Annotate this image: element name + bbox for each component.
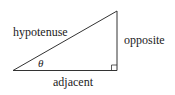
hypotenuse-label: hypotenuse (13, 25, 68, 39)
opposite-label: opposite (124, 33, 165, 47)
right-angle-marker (112, 65, 118, 71)
adjacent-label: adjacent (53, 75, 94, 89)
right-triangle-diagram: hypotenuse opposite adjacent θ (0, 0, 175, 95)
theta-angle-label: θ (38, 57, 44, 69)
triangle-shape (13, 11, 117, 71)
